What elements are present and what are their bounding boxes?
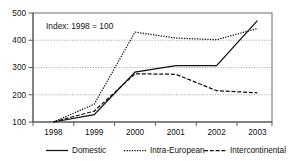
x-tick-label-2002: 2002 [207, 128, 226, 137]
x-tick-label-2003: 2003 [248, 128, 267, 137]
legend-label-domestic: Domestic [72, 146, 106, 155]
y-tick-label-200: 200 [12, 91, 26, 100]
index-base-annotation: Index: 1998 = 100 [46, 21, 114, 31]
x-tick-label-2000: 2000 [126, 128, 145, 137]
y-tick-label-100: 100 [12, 118, 26, 127]
index-line-chart: 100 200 300 400 500 1998 1999 2000 2001 … [0, 0, 288, 161]
x-tick-label-2001: 2001 [167, 128, 186, 137]
y-tick-label-400: 400 [12, 36, 26, 45]
x-tick-label-1999: 1999 [85, 128, 104, 137]
legend: Domestic Intra-European Intercontinental [46, 146, 286, 155]
x-tick-label-1998: 1998 [44, 128, 63, 137]
chart-container: 100 200 300 400 500 1998 1999 2000 2001 … [0, 0, 288, 161]
y-tick-label-300: 300 [12, 63, 26, 72]
legend-label-intra-european: Intra-European [150, 146, 205, 155]
y-tick-label-500: 500 [12, 9, 26, 18]
legend-label-intercontinental: Intercontinental [230, 146, 286, 155]
chart-background [0, 0, 288, 161]
